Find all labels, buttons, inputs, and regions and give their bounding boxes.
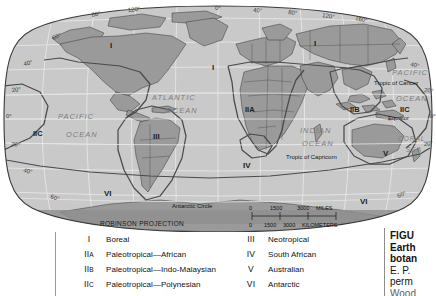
map-label-IIA-africa: IIA [245, 105, 255, 114]
coral-sea-line2: SEA [406, 146, 422, 153]
legend-symbol-IIC: IIC [72, 279, 106, 289]
legend-symbol-IV: IV [234, 249, 268, 259]
legend-column-right: III Neotropical IV South African V Austr… [234, 234, 316, 294]
antarctic-circle-label: Antarctic Circle [172, 203, 213, 209]
legend-item-I: I Boreal [72, 234, 216, 249]
map-label-IIC-pacific-west: IIC [33, 129, 43, 138]
scale-km-tick-3000: 3000 [283, 222, 295, 228]
legend-label-boreal: Boreal [106, 235, 129, 244]
lat-tick-20n: 20° [11, 86, 21, 93]
legend-left-rule [55, 232, 56, 296]
legend-label-paleotropical-african: Paleotropical—African [106, 250, 186, 259]
scale-km-tick-0: 0 [249, 222, 252, 228]
legend-item-IIA: IIA Paleotropical—African [72, 249, 216, 264]
map-label-I-europe: I [212, 63, 214, 72]
map-label-IIB-indo-malaysia: IIB [350, 105, 360, 114]
projection-band [0, 210, 436, 224]
indian-ocean-line1: INDIAN [300, 126, 331, 135]
legend-item-V: V Australian [234, 264, 316, 279]
legend-column-left: I Boreal IIA Paleotropical—African IIB P… [72, 234, 216, 294]
coral-sea-line1: CORAL [398, 135, 425, 142]
legend-symbol-V: V [234, 264, 268, 274]
atlantic-ocean-line1: ATLANTIC [151, 93, 196, 102]
figure-caption: FIGU Earth botan E. P. perm Wood [390, 230, 436, 296]
scale-miles-unit: MILES [316, 205, 333, 211]
map-label-VI-antarctic-west: VI [104, 189, 112, 198]
pacific-ocean-east-line1: PACIFIC [392, 68, 428, 77]
scale-km-unit: KILOMETERS [302, 222, 338, 228]
lon-tick-0: 0° [215, 5, 221, 11]
legend-item-III: III Neotropical [234, 234, 316, 249]
legend-label-antarctic: Antarctic [268, 280, 300, 289]
scale-miles-tick-3000: 3000 [297, 205, 309, 211]
lat-tick-0: 0° [6, 113, 12, 119]
pacific-ocean-west-line1: PACIFIC [58, 112, 94, 121]
caption-line-4: E. P. [390, 265, 436, 277]
legend-label-paleotropical-indo-malaysian: Paleotropical—Indo-Malaysian [106, 265, 216, 274]
legend-symbol-I: I [72, 234, 106, 244]
legend-item-IIC: IIC Paleotropical—Polynesian [72, 279, 216, 294]
pacific-ocean-west-line2: OCEAN [66, 130, 98, 139]
caption-line-2: Earth [390, 242, 436, 254]
lon-tick-40e: 40° [253, 7, 263, 14]
indian-ocean-line2: OCEAN [302, 139, 334, 148]
map-label-IV-south-africa: IV [243, 161, 251, 170]
map-label-IIC-pacific-east: IIC [400, 105, 410, 114]
legend-label-australian: Australian [268, 265, 304, 274]
map-svg: 80° 120° 0° 40° 80° 120° 160° 60° 40° 20… [0, 0, 436, 232]
legend-symbol-III: III [234, 234, 268, 244]
figure-root: 80° 120° 0° 40° 80° 120° 160° 60° 40° 20… [0, 0, 436, 296]
projection-label: ROBINSON PROJECTION [100, 220, 184, 227]
tropic-of-capricorn-label: Tropic of Capricorn [286, 154, 337, 160]
lon-tick-80e: 80° [288, 9, 298, 16]
legend-symbol-IIB: IIB [72, 264, 106, 274]
scale-miles-tick-1500: 1500 [270, 205, 282, 211]
caption-line-6: Wood [390, 288, 436, 296]
caption-line-1: FIGU [390, 230, 436, 242]
legend-item-IIB: IIB Paleotropical—Indo-Malaysian [72, 264, 216, 279]
scale-km-tick-1500: 1500 [264, 222, 276, 228]
map-label-III-south-america: III [153, 132, 160, 141]
equator-label: Equator [388, 115, 409, 121]
tropic-of-cancer-label: Tropic of Cancer [374, 80, 418, 86]
caption-line-5: perm [390, 276, 436, 288]
legend-label-south-african: South African [268, 250, 316, 259]
caption-divider-rule [384, 228, 385, 296]
legend-item-VI: VI Antarctic [234, 279, 316, 294]
map-label-I-north-america: I [110, 41, 112, 50]
map-label-I-eurasia: I [314, 39, 316, 48]
caption-line-3: botan [390, 253, 436, 265]
world-map: 80° 120° 0° 40° 80° 120° 160° 60° 40° 20… [0, 0, 436, 232]
lat-tick-right-0: 0° [430, 113, 436, 119]
legend-label-neotropical: Neotropical [268, 235, 309, 244]
scale-miles-tick-0: 0 [249, 205, 252, 211]
map-label-V-australia: V [383, 149, 389, 158]
legend-label-paleotropical-polynesian: Paleotropical—Polynesian [106, 280, 201, 289]
legend-symbol-IIA: IIA [72, 249, 106, 259]
pacific-ocean-east-line2: OCEAN [396, 94, 428, 103]
map-legend: I Boreal IIA Paleotropical—African IIB P… [58, 234, 380, 294]
atlantic-ocean-line2: OCEAN [166, 106, 198, 115]
lat-tick-right-20n: 20° [424, 87, 434, 94]
legend-symbol-VI: VI [234, 279, 268, 289]
map-label-VI-antarctic-east: VI [360, 197, 368, 206]
legend-item-IV: IV South African [234, 249, 316, 264]
lat-tick-20s: 20° [11, 141, 21, 148]
